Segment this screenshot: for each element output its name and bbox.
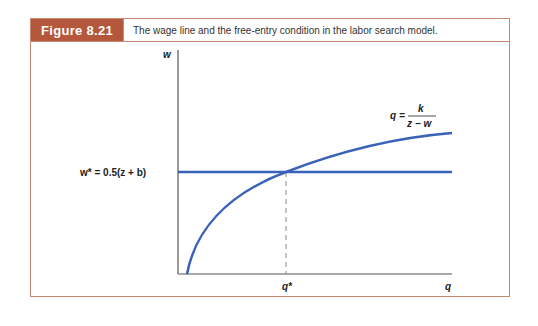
wage-line-label: w* = 0.5(z + b) [79,167,146,178]
labor-search-diagram: w q q* w* = 0.5(z + b) q = k z − w [0,0,538,326]
y-axis-label: w [163,49,172,60]
equilibrium-q-label: q* [282,281,293,292]
free-entry-curve [187,133,452,274]
x-axis-label: q [445,281,451,292]
curve-label-numerator: k [418,103,424,114]
curve-label-denominator: z − w [406,118,432,129]
curve-label-lhs: q = [390,110,405,121]
